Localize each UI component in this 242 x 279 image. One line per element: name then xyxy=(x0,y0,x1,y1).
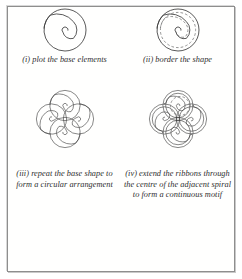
step-panel-2: (ii) border the shape xyxy=(121,7,234,69)
ribbon-unit-right xyxy=(176,104,206,134)
dashed-border-path xyxy=(160,12,195,47)
steps-grid: (i) plot the base elements (ii) border t… xyxy=(8,7,234,272)
step-panel-3: (iii) repeat the base shape to form a ci… xyxy=(8,69,121,272)
single-spiral-figure xyxy=(13,7,117,53)
step-caption-3: (iii) repeat the base shape to form a ci… xyxy=(11,169,119,190)
ribbon-unit-bottom xyxy=(162,117,192,147)
step-caption-2: (ii) border the shape xyxy=(143,55,212,66)
ribbon-unit-top xyxy=(162,90,192,120)
illustration-page: (i) plot the base elements (ii) border t… xyxy=(0,0,242,279)
spiral-path xyxy=(43,9,85,51)
spiral-unit-left xyxy=(36,104,66,134)
spiral-path xyxy=(156,9,198,51)
spiral-unit-bottom xyxy=(49,117,79,147)
dashed-guide-circle xyxy=(170,97,189,116)
spiral-unit-right xyxy=(63,104,93,134)
ribbon-unit-left xyxy=(149,104,179,134)
step-panel-1: (i) plot the base elements xyxy=(8,7,121,69)
step-caption-1: (i) plot the base elements xyxy=(22,55,107,66)
continuous-motif-figure xyxy=(125,74,231,166)
step-panel-4: (iv) extend the ribbons through the cent… xyxy=(121,69,234,272)
step-caption-4: (iv) extend the ribbons through the cent… xyxy=(124,169,232,201)
bordered-spiral-figure xyxy=(126,7,230,53)
four-spiral-rosette-figure xyxy=(12,74,118,166)
spiral-unit-top xyxy=(49,90,79,120)
